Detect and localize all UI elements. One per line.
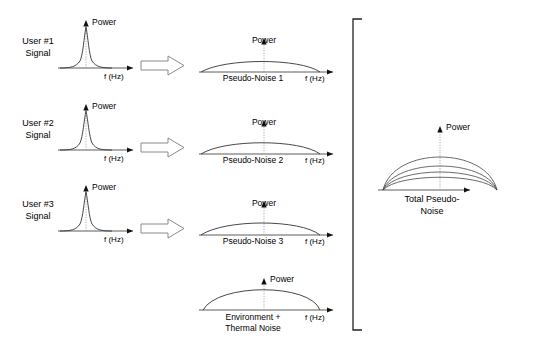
freq-axis-arrowhead-env	[327, 308, 333, 313]
freq-axis-label-1: f (Hz)	[104, 71, 124, 82]
environment-thermal-noise-label: Environment + Thermal Noise	[225, 312, 280, 334]
freq-axis-arrowhead-pn3	[327, 233, 333, 238]
block-arrow-2	[141, 138, 184, 157]
noise-curve-2	[201, 143, 320, 154]
freq-axis-arrowhead-pn2	[327, 152, 333, 157]
power-axis-label-3: Power	[92, 182, 116, 193]
noise-curve-3	[201, 223, 320, 235]
power-axis-label-pn1: Power	[252, 35, 276, 46]
freq-axis-arrowhead-3	[127, 229, 133, 234]
power-axis-label-2: Power	[92, 101, 116, 112]
freq-axis-label-pn3: f (Hz)	[305, 236, 325, 247]
power-axis-label-1: Power	[92, 17, 116, 28]
freq-axis-label-env: f (Hz)	[305, 312, 325, 323]
environment-thermal-noise-plot	[199, 278, 333, 312]
freq-axis-arrowhead-1	[127, 66, 133, 71]
pseudo-noise-label-2: Pseudo-Noise 2	[223, 155, 283, 166]
noise-curve-env	[203, 290, 320, 310]
total-pseudo-noise-plot	[378, 126, 497, 192]
freq-axis-label-3: f (Hz)	[104, 234, 124, 245]
freq-axis-label-2: f (Hz)	[104, 153, 124, 164]
pseudo-noise-label-3: Pseudo-Noise 3	[223, 236, 283, 247]
block-arrow-3	[141, 219, 184, 238]
grouping-bracket	[353, 19, 362, 330]
freq-axis-label-pn2: f (Hz)	[305, 155, 325, 166]
user-signal-label-3: User #3 Signal	[22, 198, 54, 222]
freq-axis-arrowhead-total	[464, 188, 470, 193]
power-axis-label-pn2: Power	[252, 117, 276, 128]
total-pseudo-noise-label: Total Pseudo- Noise	[404, 193, 459, 217]
freq-axis-arrowhead-pn1	[327, 70, 333, 75]
user-signal-label-2: User #2 Signal	[22, 117, 54, 141]
noise-curve-1	[201, 62, 320, 73]
power-axis-arrowhead-1	[83, 20, 88, 27]
power-axis-label-env: Power	[270, 274, 294, 285]
diagram-canvas: User #1 Signal Power f (Hz) Power Pseudo…	[0, 0, 535, 349]
freq-axis-arrowhead-2	[127, 148, 133, 153]
pseudo-noise-label-1: Pseudo-Noise 1	[223, 73, 283, 84]
block-arrow-1	[141, 56, 184, 75]
power-axis-arrowhead-env	[261, 278, 266, 285]
power-axis-arrowhead-3	[83, 185, 88, 192]
power-axis-label-pn3: Power	[252, 198, 276, 209]
power-axis-arrowhead-total	[437, 126, 442, 133]
user-signal-label-1: User #1 Signal	[22, 35, 54, 59]
diagram-vector-layer	[0, 0, 535, 349]
power-axis-arrowhead-2	[83, 104, 88, 111]
freq-axis-label-pn1: f (Hz)	[305, 73, 325, 84]
power-axis-label-total: Power	[446, 122, 470, 133]
